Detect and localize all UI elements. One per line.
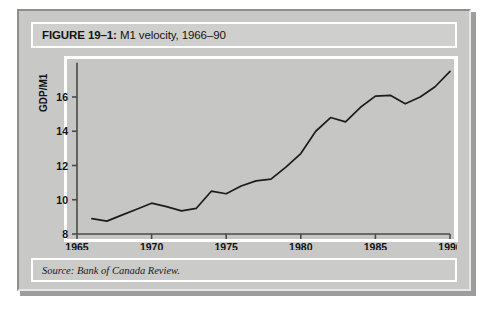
y-axis-tick-label: 8 xyxy=(62,228,68,240)
x-axis-tick-label: 1980 xyxy=(289,241,313,250)
y-axis-tick-label: 16 xyxy=(56,91,68,103)
x-axis-tick-label: 1985 xyxy=(364,241,388,250)
x-axis-tick-label: 1990 xyxy=(438,241,457,250)
x-axis-tick-label: 1970 xyxy=(140,241,164,250)
line-chart: 810121416196519701975198019851990GDP/M1 xyxy=(31,50,457,250)
x-axis-tick-label: 1965 xyxy=(65,241,89,250)
page-title: FIGURE 19–1: M1 velocity, 1966–90 xyxy=(33,29,226,41)
y-axis-tick-label: 12 xyxy=(56,160,68,172)
figure-caption: M1 velocity, 1966–90 xyxy=(117,29,226,41)
figure-title-box: FIGURE 19–1: M1 velocity, 1966–90 xyxy=(31,22,457,48)
y-axis-title: GDP/M1 xyxy=(38,73,49,112)
figure-source-box: Source: Bank of Canada Review. xyxy=(31,258,457,282)
y-axis-tick-label: 14 xyxy=(56,125,68,137)
y-axis-tick-label: 10 xyxy=(56,194,68,206)
source-note: Source: Bank of Canada Review. xyxy=(33,265,180,276)
figure-number: FIGURE 19–1: xyxy=(42,29,117,41)
figure-container: FIGURE 19–1: M1 velocity, 1966–90 810121… xyxy=(0,0,490,310)
data-series-line xyxy=(92,71,450,221)
x-axis-tick-label: 1975 xyxy=(215,241,239,250)
